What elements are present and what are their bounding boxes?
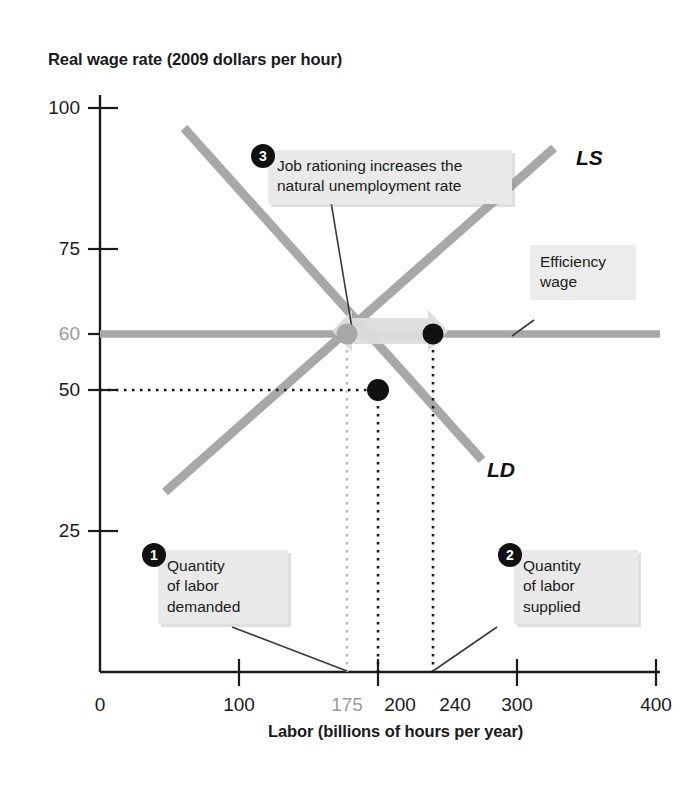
annotation-2-callout: Quantity of labor supplied [514,550,638,624]
x-tick-label-0: 0 [95,694,106,716]
labor-demand-curve-label: LD [487,458,515,482]
annotation-1-callout: Quantity of labor demanded [158,550,288,624]
quantity-supplied-point [423,324,444,345]
x-tick-label-100: 100 [223,694,255,716]
x-axis-title: Labor (billions of hours per year) [268,722,523,741]
y-tick-label-100: 100 [28,97,80,119]
y-tick-label-60: 60 [28,323,80,345]
leader-line-annotation-1 [232,627,347,671]
leader-line-annotation-2 [433,627,497,671]
chart-canvas [0,0,697,787]
annotation-1-number: 1 [142,543,166,567]
x-tick-label-400: 400 [640,694,672,716]
y-tick-label-25: 25 [28,520,80,542]
efficiency-wage-callout: Efficiency wage [530,245,636,300]
y-axis-title: Real wage rate (2009 dollars per hour) [48,50,342,69]
y-tick-marks [88,108,118,531]
y-tick-label-75: 75 [28,238,80,260]
y-tick-label-50: 50 [28,379,80,401]
x-tick-label-240: 240 [439,694,471,716]
annotation-2-number: 2 [498,543,522,567]
x-tick-label-175: 175 [331,694,363,716]
annotation-3-callout: Job rationing increases the natural unem… [268,150,512,204]
equilibrium-point [367,379,389,401]
quantity-demanded-point [337,324,358,345]
x-tick-label-200: 200 [384,694,416,716]
annotation-3-number: 3 [251,144,275,168]
labor-supply-curve-label: LS [576,146,603,170]
labor-market-efficiency-wage-figure: Real wage rate (2009 dollars per hour) L… [0,0,697,787]
x-tick-label-300: 300 [501,694,533,716]
